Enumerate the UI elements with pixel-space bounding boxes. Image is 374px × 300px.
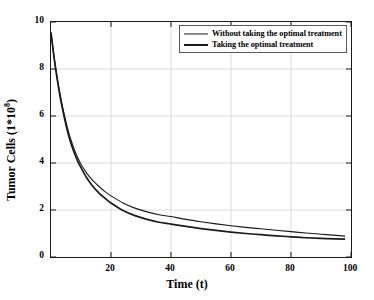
x-tick-label-40: 40 xyxy=(150,264,190,274)
x-tick-label-100: 100 xyxy=(330,264,370,274)
series-line-taking-treatment xyxy=(51,33,345,240)
legend-item-0: Without taking the optimal treatment xyxy=(180,28,346,39)
y-axis-label: Tumor Cells (1*108) xyxy=(4,99,19,201)
data-curves xyxy=(51,22,351,257)
y-tick-label-10: 10 xyxy=(18,16,44,26)
x-tick-label-20: 20 xyxy=(90,264,130,274)
legend-line-swatch-thick xyxy=(183,39,209,50)
legend-line-swatch-thin xyxy=(183,28,209,39)
y-tick-label-8: 8 xyxy=(18,63,44,73)
y-axis-label-exponent: 8 xyxy=(3,103,12,107)
plot-area: Without taking the optimal treatment Tak… xyxy=(50,21,352,258)
y-tick-label-0: 0 xyxy=(18,251,44,261)
series-line-without-treatment xyxy=(51,33,345,237)
y-tick-label-2: 2 xyxy=(18,204,44,214)
x-tick-label-60: 60 xyxy=(210,264,250,274)
chart-legend: Without taking the optimal treatment Tak… xyxy=(179,25,347,53)
legend-item-1: Taking the optimal treatment xyxy=(180,39,346,50)
x-axis-label: Time (t) xyxy=(0,277,374,292)
y-axis-label-close: ) xyxy=(4,99,18,103)
legend-label-1: Taking the optimal treatment xyxy=(209,40,313,49)
y-tick-label-4: 4 xyxy=(18,157,44,167)
y-axis-label-base: Tumor Cells (1*10 xyxy=(4,107,18,201)
y-tick-label-6: 6 xyxy=(18,110,44,120)
x-tick-label-80: 80 xyxy=(270,264,310,274)
chart-figure: Tumor Cells (1*108) 10 8 6 4 2 0 20 40 6… xyxy=(0,0,374,300)
legend-label-0: Without taking the optimal treatment xyxy=(209,29,342,38)
